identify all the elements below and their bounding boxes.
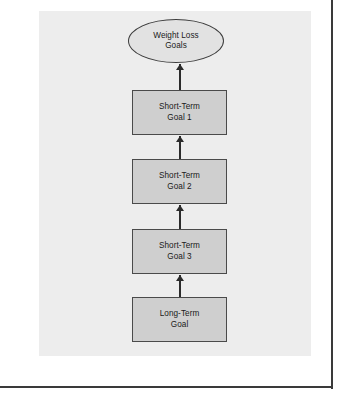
node-short-term-goal-2-label: Short-Term Goal 2: [159, 171, 200, 192]
node-short-term-goal-1-label: Short-Term Goal 1: [159, 102, 200, 123]
figure-page: Weight Loss Goals Short-Term Goal 1 Shor…: [0, 0, 348, 401]
node-short-term-goal-3-label: Short-Term Goal 3: [159, 241, 200, 262]
node-short-term-goal-2[interactable]: Short-Term Goal 2: [132, 159, 227, 204]
node-long-term-goal[interactable]: Long-Term Goal: [132, 297, 227, 342]
node-short-term-goal-1[interactable]: Short-Term Goal 1: [132, 90, 227, 135]
node-weight-loss-goals[interactable]: Weight Loss Goals: [128, 19, 224, 63]
edge-goal2-to-goal1-arrowhead: [176, 136, 184, 142]
goal-hierarchy-flowchart: Weight Loss Goals Short-Term Goal 1 Shor…: [0, 0, 348, 401]
edge-goal3-to-goal2-arrowhead: [176, 205, 184, 211]
node-long-term-goal-label: Long-Term Goal: [160, 309, 200, 330]
node-short-term-goal-3[interactable]: Short-Term Goal 3: [132, 229, 227, 274]
edge-goal1-to-weightloss-arrowhead: [176, 64, 184, 70]
node-weight-loss-goals-label: Weight Loss Goals: [153, 31, 198, 52]
edge-longterm-to-goal3-arrowhead: [176, 275, 184, 281]
